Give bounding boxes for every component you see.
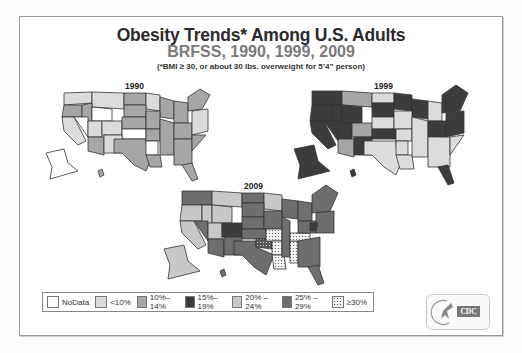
legend-item-lt10: <10%	[95, 296, 131, 308]
legend-item-10-14: 10%–14%	[137, 293, 179, 311]
legend-swatch	[185, 296, 195, 308]
map-legend: NoData <10% 10%–14% 15%–19% 20% –24% 25%…	[42, 292, 374, 312]
legend-item-20-24: 20% –24%	[232, 293, 276, 311]
map-year-label: 1990	[125, 81, 144, 91]
legend-swatch	[47, 296, 59, 308]
map-year-label: 2009	[244, 181, 263, 191]
cdc-logo: CDC	[426, 294, 490, 330]
legend-label: 25% –29%	[295, 293, 326, 311]
legend-label: ≥30%	[347, 298, 367, 307]
legend-swatch	[232, 296, 242, 308]
legend-item-nodata: NoData	[47, 296, 89, 308]
cdc-wordmark: CDC	[457, 306, 480, 317]
hhs-eagle-icon	[429, 295, 459, 329]
legend-swatch	[137, 296, 147, 308]
map-1990: 1990	[42, 75, 222, 185]
legend-swatch	[332, 296, 344, 308]
legend-item-gte30: ≥30%	[332, 296, 367, 308]
legend-swatch	[282, 296, 292, 308]
bmi-footnote: (*BMI ≥ 30, or about 30 lbs. overweight …	[20, 62, 502, 71]
legend-swatch	[95, 296, 107, 308]
legend-label: 15%–19%	[198, 293, 227, 311]
map-year-label: 1999	[374, 81, 393, 91]
map-2009: 2009	[160, 175, 360, 290]
us-map-2009	[160, 175, 360, 290]
legend-label: 10%–14%	[150, 293, 179, 311]
us-map-1990	[42, 75, 222, 185]
us-map-1999	[290, 75, 490, 190]
legend-label: NoData	[62, 298, 89, 307]
legend-label: 20% –24%	[245, 293, 276, 311]
legend-item-15-19: 15%–19%	[185, 293, 227, 311]
legend-item-25-29: 25% –29%	[282, 293, 326, 311]
legend-label: <10%	[110, 298, 131, 307]
page-subtitle: BRFSS, 1990, 1999, 2009	[20, 43, 502, 61]
map-1999: 1999	[290, 75, 490, 190]
slide-frame: Obesity Trends* Among U.S. Adults BRFSS,…	[19, 16, 503, 336]
